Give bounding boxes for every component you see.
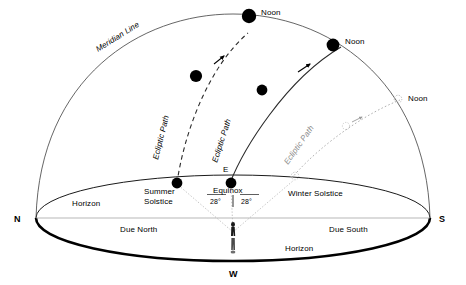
east-label: E bbox=[223, 165, 228, 174]
summer-path-arrow bbox=[214, 56, 224, 64]
observer-figure bbox=[231, 222, 236, 253]
meridian-line-label: Meridian Line bbox=[94, 20, 141, 54]
equinox-label: Equinox bbox=[213, 186, 243, 195]
noon-label-equinox: Noon bbox=[345, 37, 365, 46]
sun-summer-noon bbox=[242, 9, 256, 23]
angle-label-left: 28° bbox=[210, 198, 221, 205]
summer-solstice-label-line2: Solstice bbox=[144, 197, 173, 206]
horizon-label-left: Horizon bbox=[72, 199, 100, 208]
ecliptic-path-label-winter: Ecliptic Path bbox=[282, 123, 316, 166]
winter-sun-rise bbox=[291, 172, 299, 180]
summer-solstice-label-line1: Summer bbox=[144, 187, 175, 196]
noon-label-summer: Noon bbox=[261, 8, 281, 17]
due-south-label: Due South bbox=[329, 225, 368, 234]
winter-path-arrow bbox=[352, 117, 362, 122]
noon-label-winter: Noon bbox=[408, 94, 428, 103]
ecliptic-path-label-summer: Ecliptic Path bbox=[151, 114, 171, 161]
sun-summer-mid bbox=[190, 70, 202, 82]
winter-solstice-label: Winter Solstice bbox=[288, 189, 343, 198]
sun-equinox-noon bbox=[327, 39, 340, 52]
sun-path-diagram: Noon Noon Noon Meridian Line Ecliptic Pa… bbox=[0, 0, 466, 285]
angle-label-right: 28° bbox=[241, 198, 252, 205]
north-label: N bbox=[14, 214, 21, 224]
due-north-label: Due North bbox=[120, 225, 157, 234]
winter-sun-mid bbox=[342, 122, 349, 129]
horizon-label-bottom: Horizon bbox=[285, 244, 313, 253]
west-label: W bbox=[229, 269, 238, 279]
diagram-canvas: Noon Noon Noon Meridian Line Ecliptic Pa… bbox=[0, 0, 466, 285]
sun-disks bbox=[172, 9, 340, 189]
ecliptic-path-label-equinox: Ecliptic Path bbox=[210, 117, 233, 163]
sun-equinox-mid bbox=[257, 85, 268, 96]
south-label: S bbox=[439, 214, 445, 224]
